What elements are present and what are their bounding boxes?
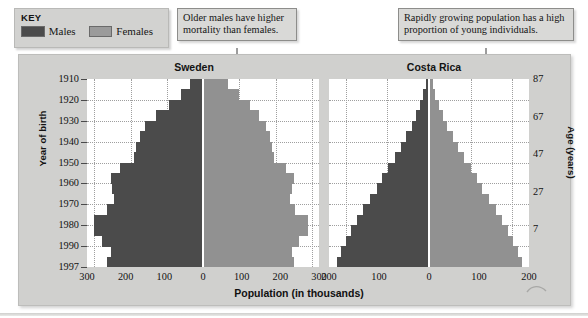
bar-female	[203, 100, 250, 111]
bar-male	[395, 152, 429, 163]
bar-male	[111, 173, 203, 184]
annotation-older-males-mortality: Older males have higher mortality than f…	[177, 8, 297, 41]
x-axis-tick-label: 200	[516, 271, 542, 282]
bar-female	[429, 152, 464, 163]
x-axis-tick-label: 100	[466, 271, 492, 282]
bar-female	[203, 204, 295, 215]
y-axis-tick-mark	[81, 100, 87, 101]
chart-panel: Sweden Costa Rica Year of birth Age (yea…	[18, 54, 571, 306]
bar-male	[346, 236, 429, 247]
key-label-males: Males	[49, 25, 76, 37]
bar-female	[429, 121, 447, 132]
bar-male	[401, 142, 429, 153]
bar-male	[412, 121, 430, 132]
bar-male	[94, 215, 203, 226]
bar-male	[382, 173, 429, 184]
panel-title-costa-rica: Costa Rica	[319, 61, 549, 73]
center-axis-sweden	[202, 79, 204, 267]
center-axis-costa-rica	[428, 79, 430, 267]
page-curl-decoration	[526, 283, 548, 295]
x-axis-tick-label: 0	[416, 271, 442, 282]
y-axis-tick-label-age: 67	[533, 111, 557, 122]
bar-male	[145, 121, 203, 132]
x-axis-tick-label: 100	[366, 271, 392, 282]
key-title: KEY	[21, 12, 162, 23]
bar-female	[429, 194, 489, 205]
y-axis-title-right: Age (years)	[566, 126, 577, 178]
bar-female	[429, 215, 502, 226]
y-axis-tick-mark	[81, 267, 87, 268]
bar-male	[337, 257, 429, 268]
bar-male	[136, 142, 203, 153]
bar-female	[429, 100, 439, 111]
bar-female	[429, 225, 508, 236]
bar-male	[416, 110, 429, 121]
bar-female	[203, 152, 274, 163]
bar-female	[203, 183, 292, 194]
x-axis-tick-label: 200	[316, 271, 342, 282]
bar-female	[429, 236, 513, 247]
bar-female	[203, 142, 272, 153]
plot-area-sweden	[87, 79, 319, 267]
y-axis-tick-label-age: 27	[533, 186, 557, 197]
panel-title-sweden: Sweden	[79, 61, 309, 73]
bar-male	[134, 152, 203, 163]
bar-male	[114, 194, 203, 205]
y-axis-tick-label-age: 47	[533, 148, 557, 159]
x-axis-tick-label: 300	[74, 271, 100, 282]
bar-male	[156, 110, 203, 121]
bar-female	[429, 110, 443, 121]
bar-female	[429, 204, 496, 215]
y-axis-tick-label-year: 1990	[47, 240, 79, 251]
y-axis-tick-mark	[81, 121, 87, 122]
y-axis-tick-label-year: 1960	[47, 177, 79, 188]
bar-female	[203, 163, 286, 174]
y-axis-tick-label-year: 1940	[47, 136, 79, 147]
bar-male	[94, 225, 203, 236]
y-axis-tick-mark	[81, 142, 87, 143]
y-axis-tick-label-year: 1980	[47, 219, 79, 230]
bar-female	[429, 173, 477, 184]
y-axis-tick-mark	[81, 246, 87, 247]
bar-male	[388, 163, 429, 174]
bar-female	[203, 194, 290, 205]
bar-female	[429, 183, 482, 194]
bar-female	[429, 142, 458, 153]
bar-male	[111, 246, 203, 257]
bar-female	[429, 257, 522, 268]
y-axis-tick-mark	[81, 225, 87, 226]
bar-female	[429, 131, 453, 142]
bar-female	[429, 163, 471, 174]
x-axis-title: Population (in thousands)	[149, 287, 449, 299]
bar-female	[203, 110, 259, 121]
y-axis-tick-label-year: 1950	[47, 157, 79, 168]
bar-female	[203, 79, 228, 90]
y-axis-tick-label-age: 7	[533, 223, 557, 234]
bar-female	[203, 89, 239, 100]
bar-male	[112, 183, 203, 194]
bar-male	[107, 204, 203, 215]
bar-male	[377, 183, 430, 194]
bar-female	[203, 173, 294, 184]
x-axis-tick-label: 100	[151, 271, 177, 282]
key-label-females: Females	[116, 25, 153, 37]
bar-female	[203, 121, 266, 132]
bar-male	[169, 100, 203, 111]
bottom-rule-divider	[0, 313, 588, 316]
key-swatch-females-icon	[89, 26, 113, 37]
bar-male	[107, 257, 203, 268]
annotation-rapidly-growing-population: Rapidly growing population has a high pr…	[398, 8, 574, 41]
bar-female	[203, 246, 292, 257]
bar-female	[203, 236, 299, 247]
y-axis-tick-mark	[81, 204, 87, 205]
key-row: Males Females	[21, 25, 162, 37]
y-axis-tick-label-year: 1970	[47, 198, 79, 209]
x-axis-tick-label: 0	[190, 271, 216, 282]
key-legend: KEY Males Females	[14, 8, 169, 48]
x-axis-tick-label: 100	[229, 271, 255, 282]
bar-female	[429, 246, 518, 257]
bar-female	[203, 215, 308, 226]
y-axis-tick-label-year: 1910	[47, 73, 79, 84]
bar-male	[140, 131, 203, 142]
bar-female	[203, 131, 270, 142]
